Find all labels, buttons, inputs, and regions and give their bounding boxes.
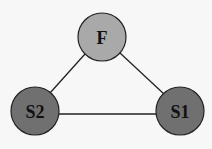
edges: [50, 53, 164, 114]
edge-f-s1: [120, 53, 164, 94]
node-s2-label: S2: [25, 102, 44, 122]
node-s1-label: S1: [170, 102, 189, 122]
node-s1: S1: [156, 87, 204, 135]
triangle-graph-diagram: F S2 S1: [0, 0, 212, 149]
edge-f-s2: [50, 54, 85, 93]
node-f: F: [78, 13, 126, 61]
node-s2: S2: [11, 87, 59, 135]
node-f-label: F: [97, 28, 108, 48]
